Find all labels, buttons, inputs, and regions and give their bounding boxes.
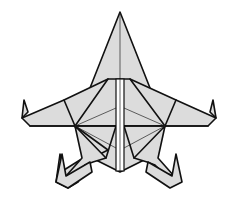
origami-jet-diagram [0, 0, 228, 202]
diagram-canvas [0, 0, 228, 202]
left-wing [22, 79, 120, 126]
